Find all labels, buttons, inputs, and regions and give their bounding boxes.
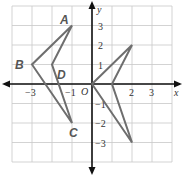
x-tick-label: −3 bbox=[25, 87, 36, 98]
y-axis-top-arrow-icon bbox=[89, 1, 96, 9]
x-tick-label: −1 bbox=[65, 87, 76, 98]
point-label-d: D bbox=[57, 68, 66, 82]
origin-label: O bbox=[81, 86, 88, 97]
point-label-a: A bbox=[59, 13, 69, 27]
y-axis-label: y bbox=[96, 4, 102, 15]
y-axis-bottom-arrow-icon bbox=[89, 167, 96, 175]
y-tick-label: 3 bbox=[98, 21, 103, 32]
point-label-c: C bbox=[69, 126, 78, 140]
x-axis-left-arrow-icon bbox=[2, 81, 10, 88]
y-tick-label: 1 bbox=[98, 60, 103, 71]
coordinate-grid: x y O −3−123321−1−2−3 ABCD bbox=[0, 0, 183, 176]
y-tick-label: −3 bbox=[95, 138, 106, 149]
y-tick-label: −2 bbox=[95, 118, 106, 129]
x-tick-label: 2 bbox=[129, 87, 134, 98]
x-tick-label: 3 bbox=[149, 87, 154, 98]
point-label-b: B bbox=[15, 58, 24, 72]
y-tick-label: 2 bbox=[98, 40, 103, 51]
x-axis-label: x bbox=[173, 87, 179, 98]
